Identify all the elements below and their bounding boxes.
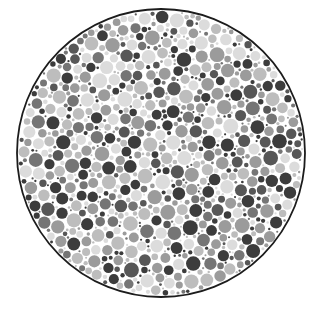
ishihara-plate-figure: Ishihara test plate (grayscale) [0, 0, 323, 310]
ishihara-plate-canvas [0, 0, 323, 310]
